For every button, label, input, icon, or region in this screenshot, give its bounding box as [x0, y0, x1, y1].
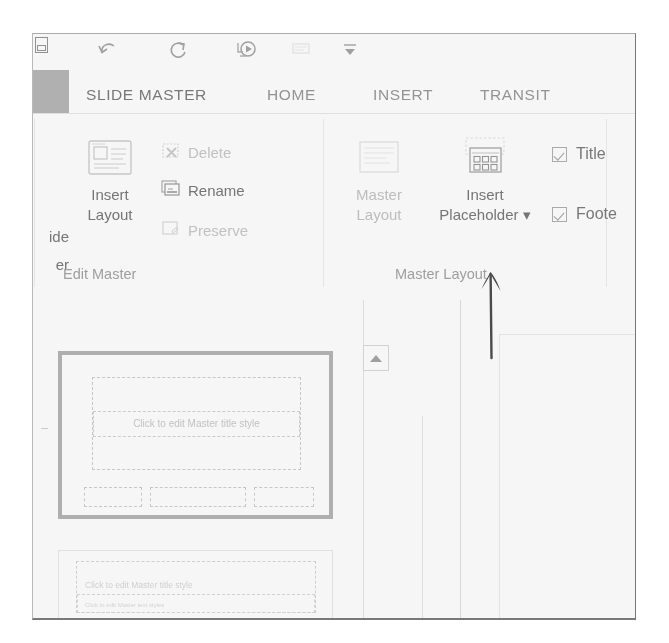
master-layout-label-line1: Master: [343, 185, 415, 205]
checkmark-icon: [552, 207, 567, 222]
insert-placeholder-label-line1: Insert: [431, 185, 539, 205]
quick-access-toolbar: [33, 34, 636, 67]
slide-number-placeholder[interactable]: [254, 487, 314, 507]
rename-button[interactable]: Rename: [159, 177, 245, 203]
delete-slide-icon: [159, 141, 185, 163]
layout-subtitle-placeholder-text: Click to edit Master text styles: [85, 602, 164, 608]
insert-slide-master-line1: ide: [49, 228, 69, 245]
layout-thumbnail[interactable]: Click to edit Master title style Click t…: [58, 550, 333, 620]
ribbon-body: ide er Insert Layout: [33, 113, 636, 301]
pane-tick-mark: [41, 428, 48, 429]
tab-insert[interactable]: INSERT: [373, 86, 433, 104]
group-separator: [323, 119, 324, 287]
chevron-down-icon[interactable]: [338, 38, 364, 62]
ribbon-top-rule: [33, 113, 636, 114]
master-layout-button[interactable]: Master Layout: [343, 135, 415, 225]
delete-label: Delete: [188, 144, 231, 161]
rename-label: Rename: [188, 182, 245, 199]
title-checkbox[interactable]: Title: [552, 141, 606, 167]
insert-placeholder-icon: [431, 135, 539, 183]
powerpoint-window: SLIDE MASTER HOME INSERT TRANSIT ide er: [32, 33, 636, 620]
insert-placeholder-label-line2: Placeholder ▾: [431, 205, 539, 225]
slide-editing-area[interactable]: [499, 334, 636, 620]
footers-checkbox[interactable]: Foote: [552, 201, 617, 227]
save-icon[interactable]: [35, 37, 48, 53]
title-checkbox-label: Title: [576, 145, 606, 163]
scroll-up-button[interactable]: [363, 345, 389, 371]
rename-icon: [159, 179, 185, 201]
screenshot-canvas: SLIDE MASTER HOME INSERT TRANSIT ide er: [0, 0, 669, 643]
title-placeholder-text: Click to edit Master title style: [133, 418, 260, 429]
workspace: Click to edit Master title style Click t…: [33, 300, 636, 620]
pane-divider: [422, 416, 423, 620]
master-layout-icon: [343, 135, 415, 183]
footers-checkbox-label: Foote: [576, 205, 617, 223]
insert-placeholder-button[interactable]: Insert Placeholder ▾: [431, 135, 539, 225]
group-label-master-layout: Master Layout: [395, 266, 487, 282]
insert-layout-label-line1: Insert: [74, 185, 146, 205]
touch-mode-icon[interactable]: [288, 38, 314, 62]
triangle-up-icon: [370, 355, 382, 362]
start-slideshow-icon[interactable]: [233, 38, 259, 62]
delete-button[interactable]: Delete: [159, 139, 231, 165]
tab-slide-master[interactable]: SLIDE MASTER: [86, 86, 207, 104]
insert-layout-button[interactable]: Insert Layout: [74, 135, 146, 225]
layout-title-placeholder-text: Click to edit Master title style: [85, 580, 193, 590]
slide-master-thumbnail[interactable]: Click to edit Master title style: [58, 351, 333, 519]
layout-title-placeholder[interactable]: Click to edit Master title style Click t…: [76, 561, 316, 613]
insert-layout-icon: [74, 135, 146, 183]
preserve-button[interactable]: Preserve: [159, 217, 248, 243]
slide-thumbnail-pane[interactable]: Click to edit Master title style Click t…: [33, 300, 364, 620]
preserve-label: Preserve: [188, 222, 248, 239]
master-layout-label-line2: Layout: [343, 205, 415, 225]
footer-placeholder[interactable]: [150, 487, 246, 507]
pane-divider: [460, 300, 461, 620]
tab-transitions[interactable]: TRANSIT: [480, 86, 551, 104]
preserve-icon: [159, 219, 185, 241]
group-label-edit-master: Edit Master: [63, 266, 136, 282]
tab-file[interactable]: [33, 70, 69, 117]
title-placeholder[interactable]: Click to edit Master title style: [92, 377, 301, 470]
insert-layout-label-line2: Layout: [74, 205, 146, 225]
checkmark-icon: [552, 147, 567, 162]
date-placeholder[interactable]: [84, 487, 142, 507]
redo-icon[interactable]: [166, 38, 192, 62]
ribbon-tab-strip: SLIDE MASTER HOME INSERT TRANSIT: [33, 67, 636, 113]
undo-icon[interactable]: [95, 38, 121, 62]
tab-home[interactable]: HOME: [267, 86, 316, 104]
